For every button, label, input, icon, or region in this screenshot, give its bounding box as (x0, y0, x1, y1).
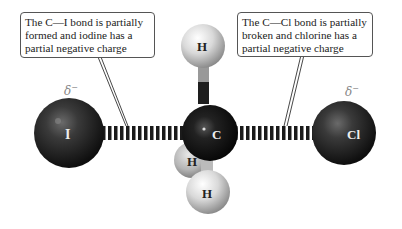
chlorine-atom (312, 101, 376, 165)
left-callout-pointer (98, 57, 128, 126)
iodine-partial-charge: δ− (64, 83, 78, 98)
callout-line: The C—I bond is partially (25, 16, 150, 29)
partial-bond-c-cl (236, 126, 314, 140)
callout-line: partial negative charge (25, 42, 150, 55)
callout-line: The C—Cl bond is partially (242, 16, 368, 29)
iodine-label: I (65, 127, 70, 142)
bond-c-h-top (198, 64, 209, 104)
left-callout: The C—I bond is partially formed and iod… (20, 12, 155, 58)
minus-sign: − (352, 84, 359, 93)
h-top-label: H (197, 39, 207, 54)
right-callout: The C—Cl bond is partially broken and ch… (237, 12, 373, 57)
h-front-label: H (202, 186, 212, 201)
right-callout-pointer (284, 55, 304, 126)
callout-line: partial negative charge (242, 42, 368, 55)
carbon-label: C (212, 127, 221, 142)
chlorine-label: Cl (347, 127, 360, 142)
callout-line: broken and chlorine has a (242, 29, 368, 42)
callout-line: formed and iodine has a (25, 29, 150, 42)
carbon-atom (182, 105, 238, 161)
chlorine-partial-charge: δ− (345, 84, 359, 99)
partial-bond-c-i (103, 126, 183, 140)
minus-sign: − (71, 83, 78, 92)
